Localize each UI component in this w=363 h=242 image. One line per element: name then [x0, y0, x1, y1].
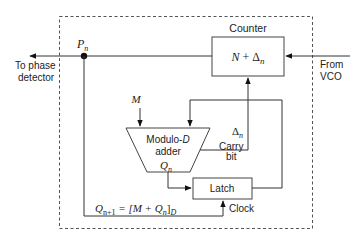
latch-label: Latch [210, 183, 234, 194]
pn-label: Pn [76, 37, 88, 53]
delta-label: Δn [232, 125, 243, 140]
to-phase-detector-label-2: detector [18, 72, 55, 83]
from-vco-label-2: VCO [320, 71, 342, 82]
m-input-label: M [130, 93, 141, 105]
adder-label-2: adder [155, 146, 181, 157]
to-phase-detector-label-1: To phase [15, 60, 56, 71]
equation: Qn+1 = [M + Qn]D [95, 202, 176, 217]
clock-label: Clock [229, 203, 255, 214]
accumulator-diagram: Counter N + Δn From VCO Pn To phase dete… [0, 0, 363, 242]
adder-label-1: Modulo-D [146, 134, 189, 145]
bit-label: bit [226, 151, 237, 162]
counter-expression: N + Δn [230, 50, 265, 66]
counter-title: Counter [229, 22, 267, 34]
from-vco-label-1: From [320, 59, 343, 70]
qn-to-latch-line [168, 172, 191, 188]
